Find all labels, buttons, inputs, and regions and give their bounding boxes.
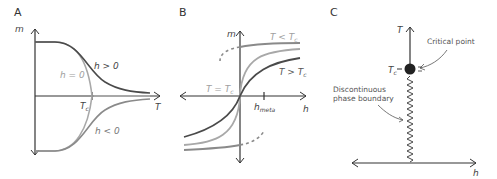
figure: A m T Tc h > 0 h = 0 h < 0 B m bbox=[0, 0, 497, 179]
label-h-negative: h < 0 bbox=[95, 126, 120, 136]
label-t-critical: T = Tc bbox=[206, 84, 234, 95]
label-h-zero: h = 0 bbox=[60, 70, 85, 80]
curve-t-below-lower-metastable bbox=[240, 131, 264, 145]
label-t-above: T > Tc bbox=[279, 67, 307, 78]
curve-h-negative bbox=[35, 99, 150, 151]
panel-c-y-axis-label: T bbox=[397, 25, 404, 35]
panel-c-x-axis-label: h bbox=[473, 168, 479, 178]
phase-boundary-line bbox=[407, 76, 413, 162]
curve-t-below-upper-metastable bbox=[220, 47, 240, 61]
annotation-arrow bbox=[420, 50, 447, 68]
critical-point-label: Critical point bbox=[427, 37, 475, 46]
panel-a: A m T Tc h > 0 h = 0 h < 0 bbox=[14, 6, 162, 155]
panel-c: C T Tc h Critical point Discontinuous ph… bbox=[330, 6, 479, 178]
curve-t-below-upper bbox=[240, 43, 300, 47]
curve-h-positive bbox=[35, 42, 150, 93]
panel-b-x-axis-label: h bbox=[303, 104, 309, 114]
annotation-arrow bbox=[378, 105, 403, 120]
hmeta-label: hmeta bbox=[254, 102, 276, 113]
panel-a-y-axis-label: m bbox=[15, 24, 24, 34]
panel-a-x-axis-label: T bbox=[155, 102, 162, 112]
panel-a-letter: A bbox=[14, 6, 22, 19]
label-t-below: T < Tc bbox=[270, 32, 298, 43]
curve-t-below-lower bbox=[184, 145, 240, 150]
critical-point-dot bbox=[405, 64, 416, 75]
label-h-positive: h > 0 bbox=[94, 61, 119, 71]
boundary-label-line1: Discontinuous bbox=[333, 85, 386, 94]
panel-b-y-axis-label: m bbox=[227, 29, 236, 39]
panel-a-tc-label: Tc bbox=[80, 101, 90, 112]
panel-b: B m h hmeta T < Tc T = Tc T > Tc bbox=[179, 6, 309, 163]
boundary-label-line2: phase boundary bbox=[333, 94, 394, 103]
panel-c-letter: C bbox=[330, 6, 338, 19]
panel-b-letter: B bbox=[179, 6, 187, 19]
panel-c-tc-label: Tc bbox=[388, 65, 398, 76]
